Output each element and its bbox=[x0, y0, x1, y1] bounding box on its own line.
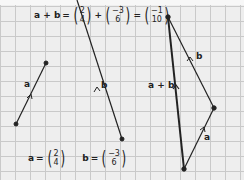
plus-sign: + bbox=[95, 10, 103, 20]
triangle-sum-line bbox=[168, 17, 184, 169]
b-y: 6 bbox=[115, 15, 120, 24]
def-a-vector: (24) bbox=[46, 148, 67, 168]
sum-equation: a + b = (24) + (−36) = (−110) bbox=[34, 5, 171, 25]
def-b-y: 6 bbox=[112, 158, 117, 167]
def-a-y: 4 bbox=[53, 158, 58, 167]
vector-a-start-point bbox=[14, 122, 18, 126]
triangle-bottom-point bbox=[182, 167, 186, 171]
def-a-label: a bbox=[28, 153, 34, 163]
sum-lhs: a + b bbox=[34, 10, 60, 20]
vector-diagram: a + b = (24) + (−36) = (−110) a = (24) b… bbox=[0, 0, 244, 180]
vector-b-arrow-icon bbox=[94, 87, 100, 92]
label-b-middle: b bbox=[101, 81, 107, 90]
equals-sign-2: = bbox=[134, 10, 142, 20]
vector-a-end-point bbox=[44, 61, 48, 65]
def-b-x: −3 bbox=[108, 149, 120, 158]
label-a-triangle: a bbox=[204, 133, 210, 142]
def-a-x: 2 bbox=[53, 149, 58, 158]
definitions: a = (24) b = (−36) bbox=[28, 148, 128, 168]
result-x: −1 bbox=[151, 6, 163, 15]
label-b-triangle: b bbox=[196, 52, 202, 61]
result-y: 10 bbox=[152, 15, 162, 24]
def-b-vector: (−36) bbox=[100, 148, 127, 168]
label-a-left: a bbox=[24, 80, 30, 89]
b-vector: (−36) bbox=[104, 5, 131, 25]
result-vector: (−110) bbox=[143, 5, 170, 25]
equals-sign: = bbox=[62, 10, 70, 20]
triangle-right-point bbox=[212, 106, 216, 110]
a-y: 4 bbox=[80, 15, 85, 24]
b-x: −3 bbox=[112, 6, 124, 15]
triangle-b-line bbox=[168, 17, 214, 108]
label-sum-triangle: a + b bbox=[148, 81, 174, 90]
def-b-label: b bbox=[82, 153, 88, 163]
vector-b-end-point bbox=[120, 137, 124, 141]
a-x: 2 bbox=[80, 6, 85, 15]
def-b-eq: = bbox=[91, 153, 99, 163]
a-vector: (24) bbox=[72, 5, 93, 25]
def-a-eq: = bbox=[36, 153, 44, 163]
